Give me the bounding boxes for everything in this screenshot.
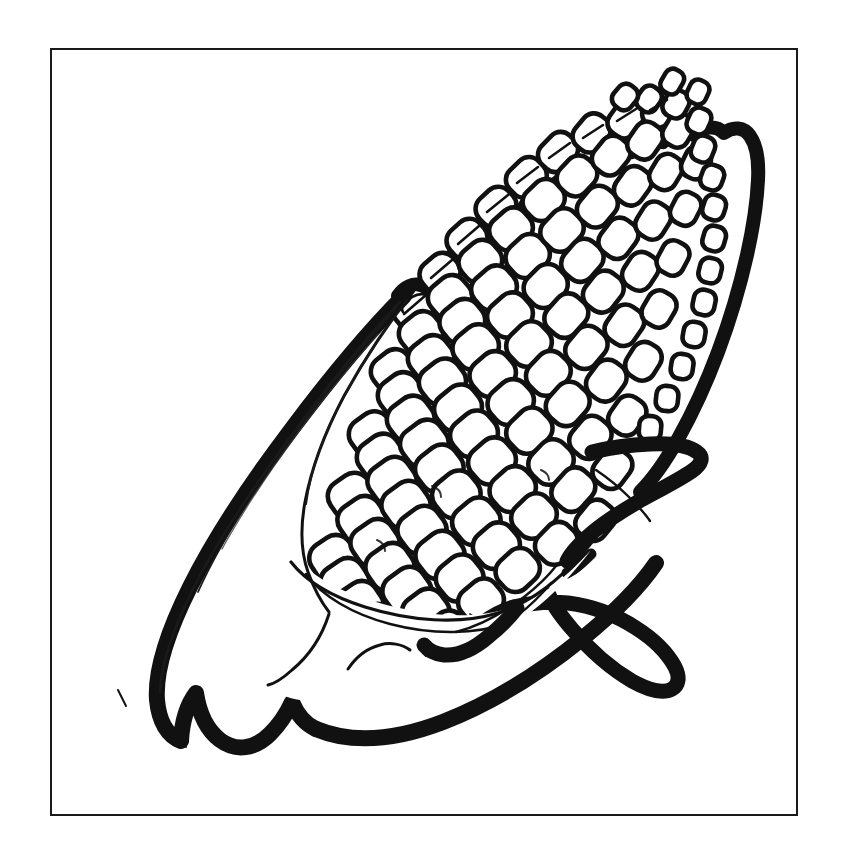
corn-illustration [0,0,846,867]
artboard [0,0,846,867]
page-root [0,0,846,867]
